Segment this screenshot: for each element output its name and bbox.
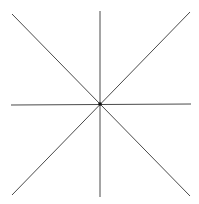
center-point <box>98 102 102 106</box>
radial-lines-diagram <box>0 0 199 204</box>
